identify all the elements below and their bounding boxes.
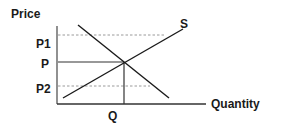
supply-curve bbox=[63, 29, 183, 98]
y-axis-label: Price bbox=[11, 7, 41, 21]
q-label: Q bbox=[108, 109, 117, 123]
p2-label: P2 bbox=[36, 82, 51, 96]
supply-demand-diagram: Price Quantity P1 P P2 Q S bbox=[0, 0, 281, 127]
p-label: P bbox=[41, 57, 49, 71]
x-axis-label: Quantity bbox=[211, 97, 260, 111]
p1-label: P1 bbox=[36, 37, 51, 51]
supply-label: S bbox=[180, 17, 188, 31]
